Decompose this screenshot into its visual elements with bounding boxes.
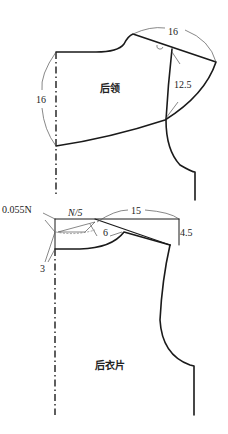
dim-armhole-depth: 12.5: [174, 79, 192, 90]
dim-arrow-top: [172, 52, 180, 64]
dim-shoulder-span: 16: [168, 26, 178, 37]
collar-label: 后领: [100, 82, 120, 94]
back-neck-curve: [55, 232, 170, 249]
neck-construction-triangle: [58, 222, 95, 232]
pointer-offset-a: [43, 213, 55, 219]
pointer-depth-a: [45, 232, 55, 262]
dim-back-neck-depth: 3: [40, 263, 45, 274]
dim-neck-curve: 6: [103, 227, 108, 238]
neck-construction-line: [90, 224, 97, 236]
collar-armhole-curve: [166, 49, 195, 200]
back-body-piece: 0.055N N/5 15 4.5 6 3 后衣片: [2, 204, 194, 415]
dim-neck-offset: 0.055N: [2, 204, 32, 215]
collar-piece: 16 16 12.5 后领: [36, 26, 216, 200]
dim-shoulder-length: 15: [131, 205, 141, 216]
dim-arc-15-right: [145, 210, 179, 219]
dim-arc-left-top: [42, 52, 56, 90]
dim-center-back-length: 16: [36, 94, 46, 105]
back-armhole-curve: [160, 245, 194, 415]
pointer-offset-b: [45, 220, 55, 232]
pattern-diagram: 16 16 12.5 后领 0.055N N/5: [0, 0, 228, 434]
dim-arc-15-left: [97, 210, 128, 222]
dim-shoulder-drop: 4.5: [180, 227, 193, 238]
dim-arc-left-bottom: [42, 108, 56, 146]
dim-arc-top-left: [133, 28, 165, 34]
right-angle-mark: [157, 45, 163, 49]
dim-neck-width: N/5: [67, 207, 82, 218]
back-body-label: 后衣片: [95, 359, 125, 371]
collar-outline: [56, 34, 216, 146]
